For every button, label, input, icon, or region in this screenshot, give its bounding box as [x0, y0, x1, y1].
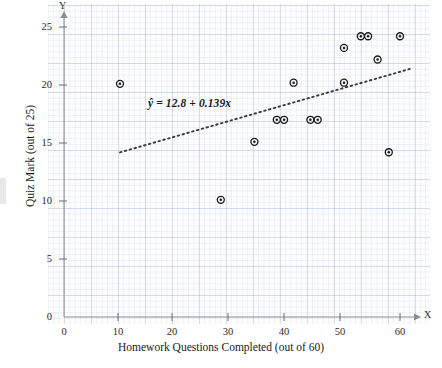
data-point-center [253, 141, 256, 144]
scatter-plot-figure: 25 20 15 10 5 0 0 10 20 30 40 50 60 Y X … [0, 0, 442, 368]
x-tick-label-40: 40 [274, 326, 294, 337]
x-axis-letter: X [424, 309, 431, 320]
axis-ticks [59, 27, 400, 321]
data-point-center [360, 35, 363, 38]
x-tick-label-20: 20 [162, 326, 182, 337]
x-tick-label-50: 50 [330, 326, 350, 337]
data-point-center [376, 58, 379, 61]
x-tick-label-60: 60 [390, 326, 410, 337]
data-point-center [388, 151, 391, 154]
data-point-center [119, 83, 122, 86]
data-point-center [343, 81, 346, 84]
x-tick-label-30: 30 [218, 326, 238, 337]
y-tick-label-0: 0 [30, 311, 52, 322]
data-point-center [343, 47, 346, 50]
data-points [117, 33, 404, 204]
data-point-center [399, 35, 402, 38]
equation-text: ŷ = 12.8 + 0.139x [148, 97, 231, 109]
data-point-center [276, 119, 279, 122]
data-point-center [220, 199, 223, 202]
y-axis-letter: Y [59, 0, 66, 11]
axes [60, 11, 421, 321]
data-point-center [309, 119, 312, 122]
data-point-center [316, 119, 319, 122]
y-axis-title: Quiz Mark (out of 25) [24, 56, 36, 256]
y-tick-label-25: 25 [30, 21, 52, 32]
data-point-center [283, 119, 286, 122]
data-point-center [292, 81, 295, 84]
x-tick-label-0: 0 [54, 326, 74, 337]
regression-equation-label: ŷ = 12.8 + 0.139x [148, 97, 231, 109]
plot-canvas [0, 0, 442, 368]
x-tick-label-10: 10 [108, 326, 128, 337]
regression-line [120, 69, 411, 153]
x-axis-title: Homework Questions Completed (out of 60) [0, 341, 442, 353]
data-point-center [367, 35, 370, 38]
